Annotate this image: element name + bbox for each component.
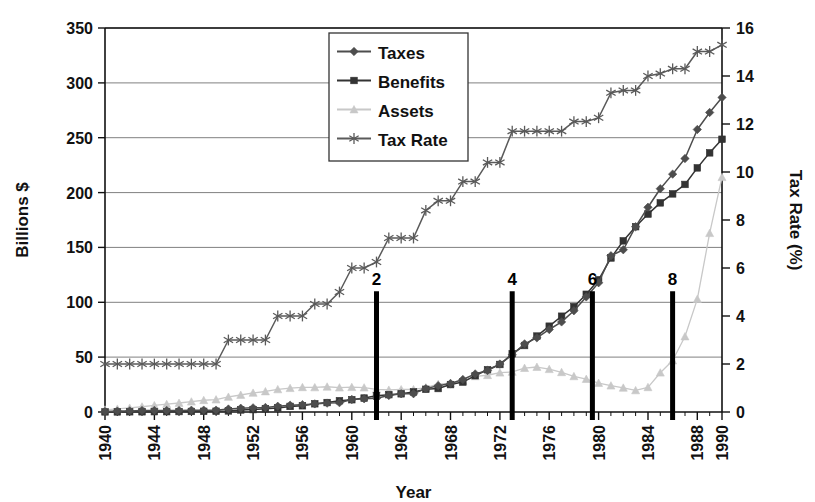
y-tick-label-left: 150: [66, 239, 93, 256]
x-axis-title: Year: [396, 483, 432, 502]
chart-legend: TaxesBenefitsAssetsTax Rate: [329, 33, 468, 161]
x-tick-label: 1988: [689, 425, 706, 461]
x-tick-label: 1940: [97, 425, 114, 461]
y-axis-right-title: Tax Rate (%): [786, 170, 805, 271]
y-tick-label-left: 100: [66, 294, 93, 311]
annotation-label: 8: [668, 270, 677, 289]
y-tick-label-left: 50: [75, 349, 93, 366]
y-tick-label-left: 250: [66, 130, 93, 147]
y-tick-label-left: 350: [66, 20, 93, 37]
legend-label: Assets: [378, 102, 434, 121]
y-tick-label-right: 0: [736, 404, 745, 421]
data-point-square: [669, 191, 676, 198]
y-axis-left-title: Billions $: [13, 182, 32, 258]
x-tick-label: 1952: [245, 425, 262, 461]
x-tick-label: 1972: [492, 425, 509, 461]
data-point-square: [351, 77, 358, 84]
data-point-square: [657, 200, 664, 207]
y-tick-label-left: 200: [66, 185, 93, 202]
y-tick-label-right: 12: [736, 116, 754, 133]
y-tick-label-left: 300: [66, 75, 93, 92]
legend-label: Taxes: [378, 44, 425, 63]
data-point-square: [706, 150, 713, 157]
y-tick-label-left: 0: [84, 404, 93, 421]
x-tick-label: 1984: [640, 425, 657, 461]
x-tick-label: 1960: [344, 425, 361, 461]
y-tick-label-right: 4: [736, 308, 745, 325]
chart-figure: 2468 19401944194819521956196019641968197…: [0, 0, 815, 502]
legend-label: Tax Rate: [378, 131, 448, 150]
y-tick-label-right: 8: [736, 212, 745, 229]
legend-label: Benefits: [378, 73, 445, 92]
data-point-square: [620, 238, 627, 245]
x-tick-label: 1990: [714, 425, 731, 461]
data-point-square: [694, 165, 701, 172]
y-tick-label-right: 14: [736, 68, 754, 85]
line-chart: 2468 19401944194819521956196019641968197…: [0, 0, 815, 502]
x-tick-label: 1980: [591, 425, 608, 461]
x-tick-label: 1948: [196, 425, 213, 461]
annotation-label: 4: [507, 270, 517, 289]
y-tick-label-right: 10: [736, 164, 754, 181]
x-tick-label: 1956: [294, 425, 311, 461]
annotation-label: 2: [372, 270, 381, 289]
annotation-label: 6: [588, 270, 597, 289]
data-point-square: [719, 136, 726, 143]
x-tick-label: 1968: [443, 425, 460, 461]
y-tick-label-right: 2: [736, 356, 745, 373]
x-tick-label: 1944: [146, 425, 163, 461]
data-point-square: [682, 181, 689, 188]
x-tick-label: 1964: [393, 425, 410, 461]
y-tick-label-right: 6: [736, 260, 745, 277]
y-tick-label-right: 16: [736, 20, 754, 37]
x-tick-label: 1976: [541, 425, 558, 461]
